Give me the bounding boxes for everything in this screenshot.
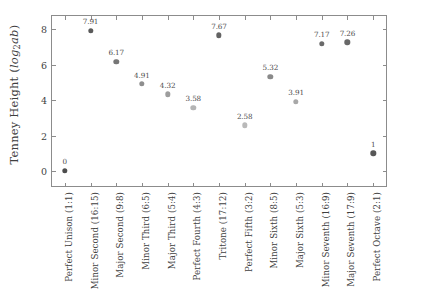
x-axis-tick <box>270 16 271 20</box>
data-point <box>319 41 324 46</box>
x-axis-tick <box>270 183 271 187</box>
x-axis-tick <box>296 16 297 20</box>
x-axis-tick <box>142 16 143 20</box>
data-point-value-label: 5.32 <box>263 63 279 72</box>
data-point <box>345 40 350 45</box>
data-point <box>242 123 247 128</box>
data-point <box>62 168 67 173</box>
x-axis-tick <box>322 16 323 20</box>
data-point <box>216 32 221 37</box>
x-axis-category-label-text: Perfect Fifth (3:2) <box>244 192 254 272</box>
x-axis-tick <box>219 183 220 187</box>
y-axis-title-math-sub: 2 <box>13 44 23 49</box>
data-point-value-label: 7.91 <box>83 17 99 26</box>
x-axis-tick <box>245 16 246 20</box>
data-point <box>191 105 196 110</box>
y-axis-tick <box>52 29 56 30</box>
x-axis-tick <box>245 183 246 187</box>
x-axis-category-label-text: Tritone (17:12) <box>218 192 228 260</box>
x-axis-category-label-text: Minor Seventh (16:9) <box>321 192 331 287</box>
y-axis-tick-label: 0 <box>41 165 47 176</box>
tenney-height-scatter-chart: Tenney Height (log2ab) 0246807.916.174.9… <box>0 0 441 301</box>
data-point-value-label: 4.91 <box>134 71 150 80</box>
x-axis-tick <box>91 183 92 187</box>
y-axis-tick <box>383 29 387 30</box>
y-axis-tick <box>383 65 387 66</box>
data-point-value-label: 7.67 <box>211 22 227 31</box>
y-axis-tick-label: 6 <box>41 59 47 70</box>
x-axis-tick <box>168 183 169 187</box>
y-axis-tick <box>52 136 56 137</box>
data-point-value-label: 3.58 <box>185 94 201 103</box>
x-axis-category-label-text: Major Sixth (5:3) <box>295 192 305 268</box>
data-point-value-label: 4.32 <box>160 81 176 90</box>
y-axis-tick <box>383 100 387 101</box>
data-point-value-label: 3.91 <box>288 88 304 97</box>
y-axis-title-suffix: ) <box>7 25 21 30</box>
x-axis-category-label-text: Perfect Octave (2:1) <box>372 192 382 282</box>
x-axis-tick <box>116 16 117 20</box>
y-axis-title-text: Tenney Height (log2ab) <box>7 25 22 165</box>
x-axis-category-label-text: Major Second (9:8) <box>115 192 125 278</box>
x-axis-tick <box>116 183 117 187</box>
y-axis-title-math-args: ab <box>7 30 21 45</box>
x-axis-tick <box>373 16 374 20</box>
x-axis-tick <box>65 16 66 20</box>
x-axis-tick <box>142 183 143 187</box>
data-point <box>370 151 375 156</box>
x-axis-category-label-text: Major Third (5:4) <box>167 192 177 269</box>
x-axis-tick <box>296 183 297 187</box>
y-axis-tick-label: 8 <box>41 24 47 35</box>
y-axis-tick <box>52 171 56 172</box>
y-axis-title: Tenney Height (log2ab) <box>0 0 30 190</box>
y-axis-title-math-base: log <box>7 50 21 69</box>
x-axis-tick <box>373 183 374 187</box>
data-point <box>293 99 298 104</box>
y-axis-tick <box>383 136 387 137</box>
x-axis-category-label: Perfect Octave (2:1) <box>372 192 441 202</box>
data-point-value-label: 0 <box>63 157 67 166</box>
data-point-value-label: 6.17 <box>108 48 124 57</box>
x-axis-tick <box>322 183 323 187</box>
data-point-value-label: 7.17 <box>314 30 330 39</box>
y-axis-tick-label: 2 <box>41 130 47 141</box>
x-axis-category-label-text: Major Seventh (17:9) <box>346 192 356 287</box>
x-axis-category-label-text: Perfect Fourth (4:3) <box>192 192 202 280</box>
data-point <box>114 59 119 64</box>
x-axis-tick <box>347 183 348 187</box>
x-axis-category-label-text: Minor Third (6:5) <box>141 192 151 270</box>
x-axis-category-label-text: Minor Second (16:15) <box>90 192 100 289</box>
x-axis-tick <box>347 16 348 20</box>
data-point-value-label: 1 <box>371 140 375 149</box>
data-point <box>268 74 273 79</box>
data-point <box>165 92 170 97</box>
x-axis-tick <box>65 183 66 187</box>
x-axis-category-label-text: Perfect Unison (1:1) <box>64 192 74 282</box>
data-point <box>139 81 144 86</box>
x-axis-tick <box>219 16 220 20</box>
x-axis-tick <box>168 16 169 20</box>
y-axis-tick-label: 4 <box>41 95 47 106</box>
data-point-value-label: 2.58 <box>237 112 253 121</box>
x-axis-tick <box>193 16 194 20</box>
y-axis-tick <box>52 100 56 101</box>
y-axis-tick <box>383 171 387 172</box>
plot-area: 0246807.916.174.914.323.587.672.585.323.… <box>51 15 387 187</box>
x-axis-tick <box>193 183 194 187</box>
data-point-value-label: 7.26 <box>340 29 356 38</box>
data-point <box>88 28 93 33</box>
x-axis-category-label-text: Minor Sixth (8:5) <box>269 192 279 269</box>
y-axis-tick <box>52 65 56 66</box>
y-axis-title-prefix: Tenney Height ( <box>7 68 21 164</box>
